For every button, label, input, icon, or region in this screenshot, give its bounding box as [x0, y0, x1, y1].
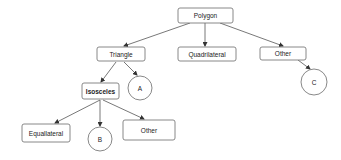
edge-isosceles-other	[103, 100, 144, 119]
node-other-top: Other	[260, 47, 306, 60]
quadrilateral-label: Quadrilateral	[188, 51, 226, 59]
polygon-label: Polygon	[194, 12, 218, 20]
node-a: A	[128, 76, 152, 100]
equallateral-label: Equallateral	[29, 130, 64, 138]
node-isosceles: Isosceles	[82, 83, 119, 99]
node-triangle: Triangle	[97, 47, 145, 61]
c-label: C	[312, 79, 317, 86]
edges	[55, 23, 310, 126]
edge-polygon-triangle	[124, 23, 190, 46]
polygon-taxonomy-diagram: Polygon Triangle Quadrilateral Other C I…	[0, 0, 341, 160]
other-top-label: Other	[275, 50, 292, 57]
node-b: B	[88, 127, 112, 151]
edge-isosceles-equallateral	[55, 100, 100, 123]
node-c: C	[301, 69, 327, 95]
isosceles-label: Isosceles	[86, 88, 116, 95]
b-label: B	[98, 136, 102, 143]
other-bottom-label: Other	[141, 127, 158, 134]
edge-polygon-other	[220, 23, 283, 46]
edge-other-c	[298, 60, 310, 69]
node-quadrilateral: Quadrilateral	[178, 47, 236, 61]
triangle-label: Triangle	[109, 51, 133, 59]
node-equallateral: Equallateral	[22, 124, 70, 142]
node-other-bottom: Other	[123, 120, 175, 140]
edge-triangle-isosceles	[101, 62, 116, 82]
edge-triangle-a	[124, 62, 137, 75]
node-polygon: Polygon	[178, 8, 233, 23]
a-label: A	[138, 85, 143, 92]
